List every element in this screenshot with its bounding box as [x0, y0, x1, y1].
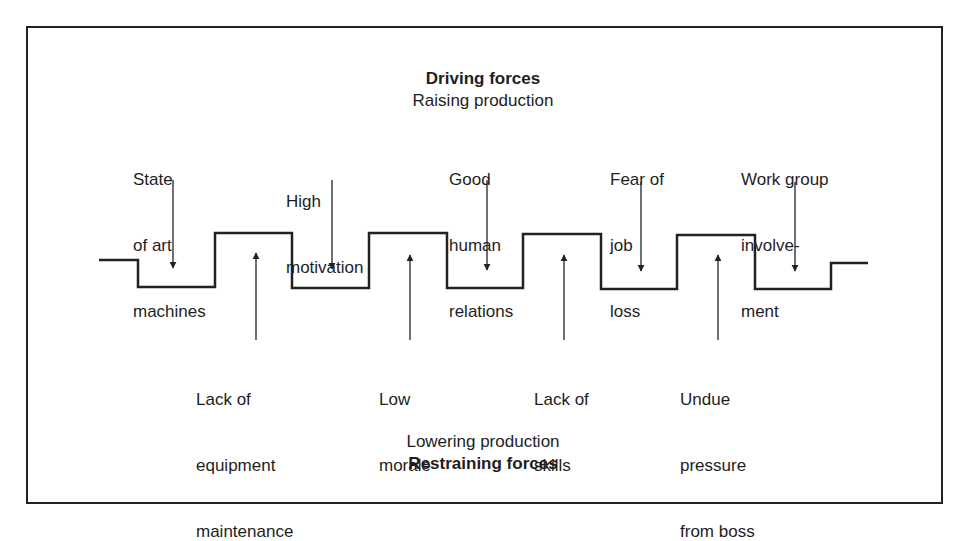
restraining-force-low-morale: Low morale — [379, 345, 431, 499]
driving-arrows — [173, 180, 795, 271]
restraining-forces-title: Restraining forces — [0, 453, 966, 475]
equilibrium-line — [99, 233, 868, 289]
restraining-force-lack-of-skills: Lack of skills — [534, 345, 589, 499]
restraining-forces-subtitle: Lowering production — [0, 431, 966, 453]
